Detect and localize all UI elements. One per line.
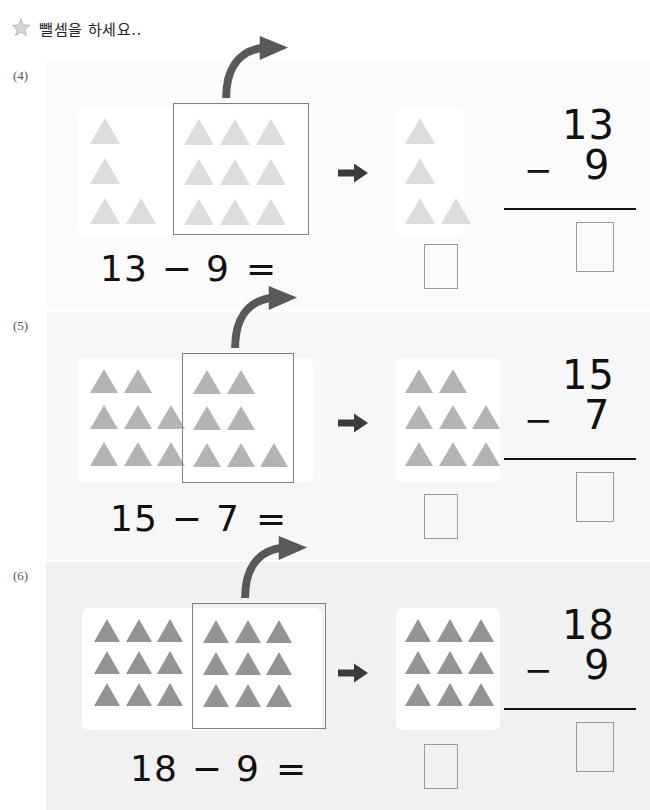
- triangle-counter: [124, 369, 152, 393]
- triangle-counter: [235, 684, 261, 707]
- triangle-counter: [256, 199, 286, 225]
- triangle-row: [193, 369, 288, 394]
- triangle-row: [94, 682, 183, 706]
- triangle-counter: [266, 620, 292, 643]
- equation-subtrahend: 9: [236, 748, 260, 789]
- triangle-counter: [441, 198, 471, 224]
- triangle-counter: [157, 651, 183, 674]
- equation-answer-box[interactable]: [424, 744, 458, 789]
- curved-arrow-icon: [232, 536, 322, 598]
- vertical-rule: [504, 708, 636, 710]
- triangle-counter: [90, 442, 118, 466]
- horizontal-equation: 13−9=: [100, 248, 276, 289]
- triangle-counter: [437, 651, 463, 674]
- vertical-answer-box[interactable]: [576, 472, 614, 522]
- equation-subtrahend: 9: [206, 248, 230, 289]
- triangle-counter: [94, 651, 120, 674]
- triangle-counter: [405, 651, 431, 674]
- vertical-minus-sign: −: [524, 400, 553, 440]
- equation-minuend: 13: [100, 248, 148, 289]
- triangle-row: [405, 618, 494, 642]
- triangle-counter: [256, 119, 286, 145]
- triangle-counter: [227, 443, 255, 467]
- triangle-counter: [220, 119, 250, 145]
- triangle-counter: [126, 619, 152, 642]
- equation-minuend: 18: [130, 748, 178, 789]
- triangle-row: [203, 683, 292, 707]
- arrow-right-icon: [338, 662, 368, 684]
- equation-equals-sign: =: [276, 748, 306, 789]
- source-panel: [82, 608, 322, 730]
- triangle-counter: [220, 199, 250, 225]
- vertical-answer-box[interactable]: [576, 722, 614, 772]
- source-outside-triangles: [94, 618, 183, 714]
- triangle-counter: [266, 684, 292, 707]
- triangle-counter: [126, 198, 156, 224]
- triangle-row: [405, 158, 471, 184]
- equation-answer-box[interactable]: [424, 494, 458, 539]
- triangle-counter: [193, 370, 221, 394]
- arrow-right-icon: [338, 162, 368, 184]
- equation-operator: −: [192, 748, 222, 789]
- triangle-counter: [90, 405, 118, 429]
- source-outside-triangles: [90, 118, 156, 238]
- triangle-counter: [439, 405, 467, 429]
- triangle-row: [184, 119, 286, 145]
- triangle-counter: [227, 406, 255, 430]
- triangle-counter: [405, 683, 431, 706]
- group-box: [192, 603, 326, 729]
- result-triangles: [405, 368, 500, 478]
- source-panel: [78, 108, 313, 236]
- triangle-row: [90, 405, 185, 430]
- triangle-counter: [124, 442, 152, 466]
- equation-subtrahend: 7: [216, 498, 240, 539]
- source-inside-triangles: [184, 119, 286, 239]
- result-panel: [396, 358, 500, 483]
- curved-arrow-icon: [222, 286, 312, 348]
- arrow-right-icon: [338, 412, 368, 434]
- triangle-counter: [468, 619, 494, 642]
- triangle-row: [405, 368, 500, 393]
- triangle-row: [405, 405, 500, 430]
- horizontal-equation: 18−9=: [130, 748, 306, 789]
- triangle-row: [90, 441, 185, 466]
- triangle-row: [184, 159, 286, 185]
- triangle-counter: [405, 198, 435, 224]
- curved-arrow: [232, 536, 322, 602]
- transform-arrow: [338, 662, 368, 684]
- worksheet-page: 뺄셈을 하세요.. (4)13−9=13−9(5)15−7=15−7(6)18−…: [0, 0, 650, 810]
- triangle-row: [90, 368, 185, 393]
- triangle-counter: [94, 619, 120, 642]
- triangle-counter: [439, 369, 467, 393]
- triangle-counter: [468, 651, 494, 674]
- triangle-row: [405, 682, 494, 706]
- source-inside-triangles: [203, 619, 292, 715]
- horizontal-equation: 15−7=: [110, 498, 286, 539]
- source-panel: [78, 358, 313, 483]
- triangle-counter: [157, 683, 183, 706]
- triangle-counter: [256, 159, 286, 185]
- result-panel: [396, 608, 500, 730]
- triangle-row: [184, 199, 286, 225]
- group-box: [182, 353, 294, 483]
- triangle-counter: [405, 619, 431, 642]
- triangle-counter: [157, 619, 183, 642]
- triangle-counter: [220, 159, 250, 185]
- triangle-counter: [266, 652, 292, 675]
- vertical-minus-sign: −: [524, 650, 553, 690]
- result-panel: [396, 108, 464, 236]
- problem-row-4: (4)13−9=13−9: [0, 62, 650, 310]
- triangle-counter: [235, 652, 261, 675]
- vertical-answer-box[interactable]: [576, 222, 614, 272]
- vertical-subtrahend: 9: [584, 142, 610, 188]
- curved-arrow: [213, 36, 303, 102]
- curved-arrow: [222, 286, 312, 352]
- triangle-row: [405, 650, 494, 674]
- triangle-counter: [405, 118, 435, 144]
- equation-answer-box[interactable]: [424, 244, 458, 289]
- triangle-counter: [90, 198, 120, 224]
- triangle-counter: [90, 158, 120, 184]
- triangle-counter: [437, 619, 463, 642]
- vertical-subtrahend: 7: [584, 392, 610, 438]
- source-inside-triangles: [193, 369, 288, 479]
